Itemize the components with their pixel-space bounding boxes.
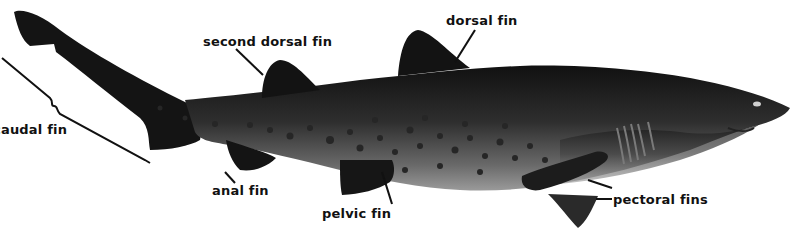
label-pectoral-fins: pectoral fins — [613, 192, 708, 207]
label-dorsal-fin: dorsal fin — [446, 13, 518, 28]
eye — [753, 102, 761, 107]
pectoral-fin-lower-shape — [548, 194, 598, 228]
label-second-dorsal-fin: second dorsal fin — [203, 34, 332, 49]
shark-anatomy-diagram: caudal fin second dorsal fin dorsal fin … — [0, 0, 810, 238]
label-anal-fin: anal fin — [212, 183, 269, 198]
label-caudal-fin: caudal fin — [0, 122, 67, 137]
label-pelvic-fin: pelvic fin — [322, 206, 391, 221]
dorsal-fin-shape — [398, 30, 470, 76]
pelvic-fin-shape — [340, 160, 394, 195]
